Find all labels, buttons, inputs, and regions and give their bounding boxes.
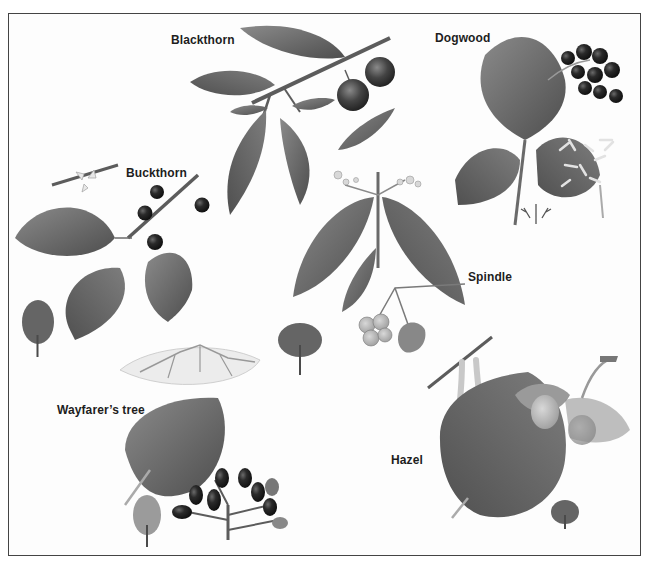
wayfarer-tree-silhouette <box>278 323 322 375</box>
dogwood-illustration <box>455 37 623 225</box>
blackthorn-illustration <box>190 26 395 215</box>
hazel-tree-silhouette <box>551 500 579 529</box>
label-hazel: Hazel <box>391 453 423 467</box>
label-dogwood: Dogwood <box>435 31 490 45</box>
wayfarers-tree-silhouette-small <box>133 495 161 547</box>
spindle-illustration <box>293 171 465 353</box>
botanical-illustration <box>0 0 652 563</box>
label-spindle: Spindle <box>468 270 512 284</box>
hazel-illustration <box>428 337 630 518</box>
buckthorn-tree-silhouette <box>22 300 54 357</box>
label-buckthorn: Buckthorn <box>126 166 187 180</box>
label-blackthorn: Blackthorn <box>171 33 235 47</box>
label-wayfarers-tree: Wayfarer’s tree <box>57 403 145 417</box>
